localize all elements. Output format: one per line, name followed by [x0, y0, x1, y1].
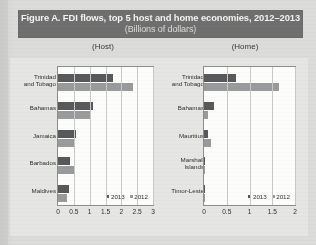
x-tick-label: 1.5	[101, 208, 110, 215]
x-tick-label: 1	[88, 208, 92, 215]
gridline	[295, 67, 296, 205]
x-tick-label: 3	[151, 208, 155, 215]
category-label: Trinidadand Tobago	[16, 73, 56, 87]
gridline	[227, 67, 228, 205]
x-tick-label: 0	[56, 208, 60, 215]
bar-2013	[204, 157, 205, 165]
bar-2012	[58, 139, 74, 147]
bar-2012	[204, 83, 279, 91]
x-tick-label: 2	[119, 208, 123, 215]
gridline	[153, 67, 154, 205]
legend-label-2013: 2013	[111, 193, 125, 200]
gridline	[106, 67, 107, 205]
gridline	[74, 67, 75, 205]
category-label: MarshallIslands	[164, 156, 204, 170]
category-label: Bahamas	[164, 104, 204, 111]
category-label: Timor-Leste	[164, 187, 204, 194]
bar-2013	[204, 130, 208, 138]
bar-2012	[204, 139, 211, 147]
gridline	[272, 67, 273, 205]
host-x-axis-ticks: 00.511.522.53	[14, 208, 160, 220]
legend-swatch-2012-icon	[130, 195, 133, 198]
legend-label-2013: 2013	[253, 193, 267, 200]
charts-container: Trinidadand TobagoBahamasJamaicaBarbados…	[10, 58, 308, 236]
chart-home: Trinidadand TobagoBahamasMauritiusMarsha…	[162, 58, 304, 236]
host-plot-area: 2013 2012	[57, 66, 154, 206]
figure-subtitle: (Billions of dollars)	[18, 24, 303, 34]
gridline	[250, 67, 251, 205]
legend-item-2013: 2013	[248, 193, 266, 200]
legend-label-2012: 2012	[276, 193, 290, 200]
legend-swatch-2013-icon	[106, 195, 109, 198]
bar-2013	[204, 185, 205, 193]
host-legend: 2013 2012	[106, 193, 148, 200]
gridline	[90, 67, 91, 205]
bar-2013	[58, 157, 70, 165]
figure-page: Figure A. FDI flows, top 5 host and home…	[0, 0, 316, 245]
bar-2012	[204, 194, 205, 202]
bar-2012	[58, 166, 74, 174]
bar-2012	[204, 111, 208, 119]
bar-2012	[204, 166, 205, 174]
bar-2013	[204, 74, 236, 82]
chart-host: Trinidadand TobagoBahamasJamaicaBarbados…	[14, 58, 160, 236]
bar-2013	[58, 185, 69, 193]
home-category-labels: Trinidadand TobagoBahamasMauritiusMarsha…	[162, 66, 204, 206]
legend-item-2012: 2012	[130, 193, 148, 200]
home-legend: 2013 2012	[248, 193, 290, 200]
x-tick-label: 0.5	[222, 208, 231, 215]
category-label: Maldives	[16, 187, 56, 194]
bar-2012	[58, 194, 67, 202]
category-label: Bahamas	[16, 104, 56, 111]
category-label: Trinidadand Tobago	[164, 73, 204, 87]
x-tick-label: 2.5	[133, 208, 142, 215]
legend-item-2012: 2012	[272, 193, 290, 200]
figure-banner: Figure A. FDI flows, top 5 host and home…	[18, 10, 303, 38]
x-tick-label: 1	[248, 208, 252, 215]
home-plot-area: 2013 2012	[203, 66, 296, 206]
x-tick-label: 0	[202, 208, 206, 215]
host-category-labels: Trinidadand TobagoBahamasJamaicaBarbados…	[14, 66, 56, 206]
category-label: Mauritius	[164, 132, 204, 139]
host-panel-caption: (Host)	[73, 42, 133, 51]
category-label: Barbados	[16, 159, 56, 166]
home-x-axis-ticks: 00.511.52	[162, 208, 304, 220]
x-tick-label: 2	[293, 208, 297, 215]
x-tick-label: 0.5	[69, 208, 78, 215]
gridline	[137, 67, 138, 205]
x-tick-label: 1.5	[268, 208, 277, 215]
gridline	[121, 67, 122, 205]
bar-2013	[204, 102, 214, 110]
bar-2013	[58, 102, 93, 110]
category-label: Jamaica	[16, 132, 56, 139]
home-panel-caption: (Home)	[215, 42, 275, 51]
figure-title: Figure A. FDI flows, top 5 host and home…	[18, 12, 303, 23]
